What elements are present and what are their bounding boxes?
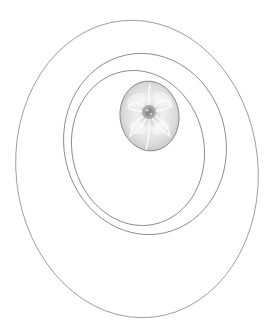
flower-photo xyxy=(115,75,185,157)
concentric-ellipses-drawing xyxy=(0,0,278,335)
outer-ring xyxy=(1,8,273,330)
